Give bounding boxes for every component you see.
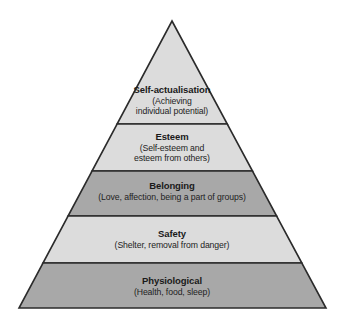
- pyramid-tier-5-shape: [19, 263, 326, 308]
- pyramid-tier-2-shape: [92, 124, 252, 171]
- pyramid-shape: [0, 0, 344, 326]
- pyramid-tier-3-shape: [68, 171, 277, 216]
- pyramid-tier-1-shape: [117, 21, 227, 124]
- pyramid-tier-4-shape: [43, 216, 302, 263]
- hierarchy-of-needs-diagram: Self-actualisation (Achieving individual…: [0, 0, 344, 326]
